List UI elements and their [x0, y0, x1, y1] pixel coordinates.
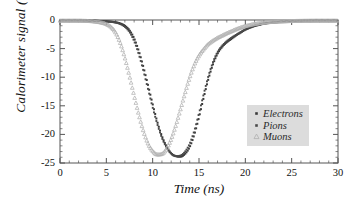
legend-item-pions: Pions	[251, 120, 303, 132]
open-triangle-icon	[251, 133, 262, 140]
chart-legend: ElectronsPionsMuons	[247, 105, 309, 146]
y-tick-label: -5	[26, 43, 55, 54]
legend-item-muons: Muons	[251, 131, 303, 143]
filled-square-icon	[251, 122, 262, 129]
x-tick-label: 5	[92, 167, 120, 178]
y-tick-label: -25	[26, 157, 55, 168]
legend-label: Electrons	[263, 108, 303, 119]
legend-item-electrons: Electrons	[251, 108, 303, 120]
legend-label: Pions	[263, 120, 287, 131]
y-tick-label: -20	[26, 128, 55, 139]
filled-square-icon	[251, 110, 262, 117]
figure: Calorimeter signal (a.u.) Time (ns) 0510…	[0, 0, 355, 207]
x-tick-label: 20	[231, 167, 259, 178]
y-tick-label: -10	[26, 71, 55, 82]
y-tick-label: -15	[26, 100, 55, 111]
x-axis-label: Time (ns)	[60, 181, 338, 197]
x-tick-label: 30	[324, 167, 352, 178]
legend-label: Muons	[263, 131, 292, 142]
x-tick-label: 25	[278, 167, 306, 178]
y-tick-label: 0	[26, 14, 55, 25]
x-tick-label: 0	[46, 167, 74, 178]
x-tick-label: 10	[139, 167, 167, 178]
x-tick-label: 15	[185, 167, 213, 178]
